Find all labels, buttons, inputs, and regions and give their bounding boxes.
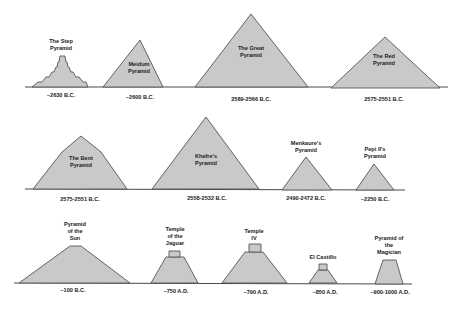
khafre-date: 2558-2532 B.C. [187,195,227,201]
great-label-1: The Great [238,45,264,51]
svg-text:The Bent: The Bent [69,155,93,161]
magician-shape [375,260,403,284]
svg-text:2575-2551 B.C.: 2575-2551 B.C. [364,96,404,102]
temple-el-castillo: El Castillo ~850 A.D. [309,254,338,295]
svg-text:~100 B.C.: ~100 B.C. [60,287,86,293]
temple4-date: ~790 A.D. [243,289,269,295]
jaguar-temple-shape [151,257,198,283]
bent-label-2: Pyramid [70,162,93,168]
castillo-shape [309,270,337,283]
svg-text:Pyramid: Pyramid [240,52,263,58]
svg-text:~750 A.D.: ~750 A.D. [163,288,189,294]
temple4-shape [222,252,287,283]
svg-text:~900-1000 A.D.: ~900-1000 A.D. [370,289,410,295]
meidum-label-1: Meidum [128,61,149,67]
sun-label-1: Pyramid [64,221,87,227]
svg-text:The Red: The Red [373,53,396,59]
pyramid-meidum: Meidum Pyramid ~2600 B.C. [103,40,163,100]
pepi-label-2: Pyramid [364,153,387,159]
step-pyramid-shape [32,56,88,87]
great-date: 2589-2566 B.C. [231,96,271,102]
svg-text:IV: IV [251,235,257,241]
bent-date: 2575-2551 B.C. [60,196,100,202]
svg-text:Meidum: Meidum [128,61,149,67]
red-label-1: The Red [373,53,396,59]
svg-text:~2250 B.C.: ~2250 B.C. [361,196,390,202]
svg-text:of the: of the [167,233,182,239]
sun-pyramid-shape [19,246,130,283]
magician-label-1: Pyramid of [375,235,404,241]
svg-text:~2630 B.C.: ~2630 B.C. [47,92,76,98]
menkaure-pyramid-shape [282,157,332,190]
meidum-date: ~2600 B.C. [126,94,155,100]
svg-text:Temple: Temple [165,226,184,232]
svg-text:Jaguar: Jaguar [166,240,185,246]
pepi-date: ~2250 B.C. [361,196,390,202]
pyramid-magician: Pyramid of the Magician ~900-1000 A.D. [370,235,410,295]
pepi-label-1: Pepi II's [365,146,386,152]
svg-text:~850 A.D.: ~850 A.D. [312,289,338,295]
pyramid-menkaure: Menkaure's Pyramid 2490-2472 B.C. [282,140,332,201]
pyramid-sun: Pyramid of the Sun ~100 B.C. [19,221,130,293]
svg-text:Magician: Magician [377,249,402,255]
svg-text:Pyramid: Pyramid [364,153,387,159]
pyramid-bent: The Bent Pyramid 2575-2551 B.C. [33,136,127,202]
svg-text:The Great: The Great [238,45,264,51]
pyramid-pepi: Pepi II's Pyramid ~2250 B.C. [356,146,394,202]
khafre-label-2: Pyramid [195,160,218,166]
meidum-label-2: Pyramid [128,68,151,74]
svg-text:Pyramid: Pyramid [128,68,151,74]
pyramid-diagram: The Step Pyramid ~2630 B.C. Meidum Pyram… [0,0,463,309]
great-label-2: Pyramid [240,52,263,58]
sun-label-3: Sun [70,235,81,241]
svg-text:2558-2532 B.C.: 2558-2532 B.C. [187,195,227,201]
temple4-label-1: Temple [244,228,263,234]
magician-date: ~900-1000 A.D. [370,289,410,295]
svg-text:2490-2472 B.C.: 2490-2472 B.C. [286,195,326,201]
magician-label-2: the [385,242,393,248]
red-label-2: Pyramid [373,60,396,66]
svg-text:2575-2551 B.C.: 2575-2551 B.C. [60,196,100,202]
svg-text:Pyramid: Pyramid [195,160,218,166]
svg-text:Pepi II's: Pepi II's [365,146,386,152]
svg-text:Pyramid: Pyramid [64,221,87,227]
temple-iv: Temple IV ~790 A.D. [222,228,287,295]
castillo-label-1: El Castillo [309,254,337,260]
svg-text:The Step: The Step [49,38,73,44]
step-label-1: The Step [49,38,73,44]
red-date: 2575-2551 B.C. [364,96,404,102]
menkaure-label-2: Pyramid [295,147,318,153]
pepi-pyramid-shape [356,164,394,190]
pyramid-great: The Great Pyramid 2589-2566 B.C. [195,14,308,102]
sun-label-2: of the [67,228,82,234]
jaguar-temple-cap [169,251,180,257]
svg-text:Pyramid of: Pyramid of [375,235,404,241]
svg-text:Pyramid: Pyramid [373,60,396,66]
jaguar-label-1: Temple [165,226,184,232]
svg-text:Menkaure's: Menkaure's [291,140,322,146]
svg-text:El Castillo: El Castillo [309,254,337,260]
svg-text:Pyramid: Pyramid [50,45,73,51]
svg-text:~790 A.D.: ~790 A.D. [243,289,269,295]
bent-label-1: The Bent [69,155,93,161]
sun-date: ~100 B.C. [60,287,86,293]
svg-text:Pyramid: Pyramid [70,162,93,168]
menkaure-label-1: Menkaure's [291,140,322,146]
khafre-label-1: Khafre's [195,153,217,159]
jaguar-label-2: of the [167,233,182,239]
svg-text:2589-2566 B.C.: 2589-2566 B.C. [231,96,271,102]
magician-label-3: Magician [377,249,402,255]
svg-text:Khafre's: Khafre's [195,153,217,159]
svg-text:~2600 B.C.: ~2600 B.C. [126,94,155,100]
svg-text:Sun: Sun [70,235,81,241]
svg-text:Pyramid: Pyramid [295,147,318,153]
pyramid-red: The Red Pyramid 2575-2551 B.C. [331,37,440,102]
temple4-label-2: IV [251,235,257,241]
pyramid-khafre: Khafre's Pyramid 2558-2532 B.C. [152,117,259,201]
jaguar-date: ~750 A.D. [163,288,189,294]
pyramid-step: The Step Pyramid ~2630 B.C. [32,38,88,98]
jaguar-label-3: Jaguar [166,240,185,246]
step-date: ~2630 B.C. [47,92,76,98]
svg-text:Temple: Temple [244,228,263,234]
castillo-date: ~850 A.D. [312,289,338,295]
